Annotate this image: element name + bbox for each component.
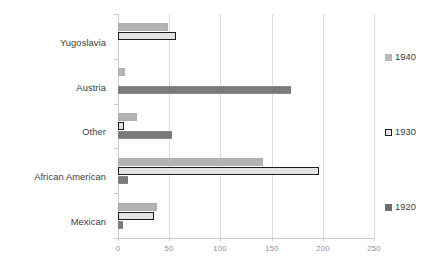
category-axis-labels: Yugoslavia Austria Other African America… [0,14,112,238]
value-tick-200 [323,238,324,241]
category-tick-1 [114,59,118,60]
category-label-austria: Austria [0,83,106,93]
gridline-150 [272,14,273,238]
legend-item-1920[interactable]: 1920 [385,202,416,212]
value-axis-label-200: 200 [308,244,338,253]
category-tick-3 [114,148,118,149]
value-axis-label-150: 150 [257,244,287,253]
value-axis-label-100: 100 [205,244,235,253]
gridline-100 [220,14,221,238]
bar-1940-austria [118,68,125,76]
category-tick-0 [114,14,118,15]
bar-1930-other [118,122,124,130]
bar-1920-african-american [118,176,128,184]
gridline-200 [323,14,324,238]
bar-1940-mexican [118,203,157,211]
value-tick-50 [169,238,170,241]
category-label-african-american: African American [0,172,106,182]
value-axis-label-0: 0 [103,244,133,253]
value-tick-0 [118,238,119,241]
bar-1930-mexican [118,212,154,220]
category-tick-4 [114,193,118,194]
legend-swatch-1920-icon [385,204,392,211]
gridline-50 [169,14,170,238]
legend-item-1930[interactable]: 1930 [385,127,416,137]
bar-1940-yugoslavia [118,23,168,31]
bar-1940-african-american [118,158,263,166]
category-label-mexican: Mexican [0,217,106,227]
legend-swatch-1940-icon [385,54,392,61]
value-axis-label-250: 250 [359,244,389,253]
bar-1920-other [118,131,172,139]
legend-label-1920: 1920 [395,202,416,212]
bar-1930-african-american [118,167,319,175]
gridline-250 [374,14,375,238]
category-label-other: Other [0,127,106,137]
value-tick-100 [220,238,221,241]
value-axis-label-50: 50 [154,244,184,253]
category-axis-line [118,238,374,239]
bar-1930-yugoslavia [118,32,176,40]
legend-item-1940[interactable]: 1940 [385,52,416,62]
chart-legend: 1940 1930 1920 [385,14,445,238]
value-tick-150 [272,238,273,241]
legend-label-1930: 1930 [395,127,416,137]
bar-1940-other [118,113,137,121]
value-tick-250 [374,238,375,241]
plot-area: 0 50 100 150 200 250 [118,14,374,238]
bar-1920-austria [118,86,291,94]
category-tick-2 [114,104,118,105]
legend-swatch-1930-icon [385,129,392,136]
legend-label-1940: 1940 [395,52,416,62]
bar-chart: Yugoslavia Austria Other African America… [0,0,445,264]
category-label-yugoslavia: Yugoslavia [0,38,106,48]
bar-1920-mexican [118,221,123,229]
